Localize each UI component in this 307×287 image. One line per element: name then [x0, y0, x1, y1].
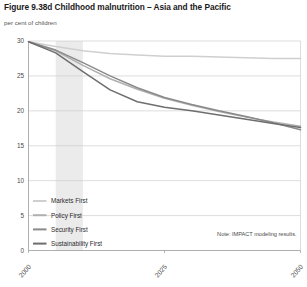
chart-note: Note: IMPACT modeling results.: [217, 231, 297, 237]
figure-panel: Figure 9.38d Childhood malnutrition – As…: [0, 0, 307, 287]
y-axis-tick-label: 20: [17, 107, 25, 114]
chart-container: 051015202530200020252050Markets FirstPol…: [0, 0, 307, 287]
legend-label-security-first: Security First: [51, 226, 88, 234]
legend-label-policy-first: Policy First: [51, 212, 82, 220]
y-axis-tick-label: 5: [20, 212, 24, 219]
x-axis-tick-label: 2050: [289, 263, 304, 279]
legend-label-markets-first: Markets First: [51, 197, 88, 204]
y-axis-tick-label: 30: [17, 37, 25, 44]
y-axis-tick-label: 15: [17, 142, 25, 149]
legend-label-sustainability-first: Sustainability First: [51, 240, 102, 248]
y-axis-tick-label: 0: [20, 247, 24, 254]
line-chart: 051015202530200020252050Markets FirstPol…: [0, 0, 307, 287]
y-axis-tick-label: 10: [17, 177, 25, 184]
x-axis-tick-label: 2025: [153, 263, 168, 279]
y-axis-tick-label: 25: [17, 72, 25, 79]
x-axis-tick-label: 2000: [17, 263, 32, 279]
